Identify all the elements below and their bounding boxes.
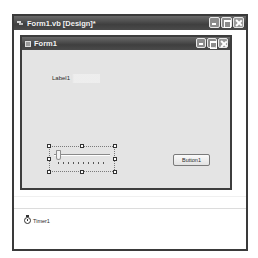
- minimize-button[interactable]: [209, 17, 220, 28]
- vb-designer-icon: [17, 20, 24, 26]
- form-titlebar[interactable]: Form1: [22, 37, 230, 50]
- form-client-area[interactable]: Label1 Button1: [22, 50, 230, 188]
- timer1-label: Timer1: [33, 218, 50, 224]
- form1-design-surface[interactable]: Form1 Label1 Button1: [20, 35, 232, 190]
- resize-handle-s[interactable]: [80, 170, 84, 174]
- close-button[interactable]: [233, 17, 244, 28]
- resize-handle-e[interactable]: [113, 157, 117, 161]
- resize-handle-se[interactable]: [113, 170, 117, 174]
- trackbar-control[interactable]: [49, 146, 115, 172]
- trackbar-ticks: [58, 162, 106, 164]
- designer-titlebar[interactable]: Form1.vb [Design]*: [14, 16, 246, 30]
- designer-window: Form1.vb [Design]* Form1 Label1: [12, 14, 248, 251]
- form-maximize-button: [207, 38, 217, 48]
- label1-text: Label1: [52, 75, 71, 81]
- maximize-button[interactable]: [221, 17, 232, 28]
- form-minimize-button: [196, 38, 206, 48]
- resize-handle-sw[interactable]: [47, 170, 51, 174]
- resize-handle-ne[interactable]: [113, 144, 117, 148]
- resize-handle-nw[interactable]: [47, 144, 51, 148]
- component-tray-divider: [14, 208, 246, 209]
- form-title: Form1: [34, 39, 57, 48]
- designer-title: Form1.vb [Design]*: [27, 19, 96, 28]
- tray-divider-light: [14, 196, 246, 197]
- resize-handle-n[interactable]: [80, 144, 84, 148]
- button1-control[interactable]: Button1: [173, 154, 210, 166]
- component-tray-item-timer1[interactable]: Timer1: [24, 217, 50, 224]
- form-icon: [25, 41, 31, 47]
- form-close-button: [218, 38, 228, 48]
- trackbar-track: [54, 154, 110, 156]
- designer-caption-buttons: [209, 17, 244, 28]
- resize-handle-w[interactable]: [47, 157, 51, 161]
- trackbar-thumb[interactable]: [56, 150, 61, 160]
- label1-control[interactable]: Label1: [52, 74, 100, 83]
- timer-icon: [24, 217, 31, 224]
- form-caption-buttons: [196, 38, 228, 48]
